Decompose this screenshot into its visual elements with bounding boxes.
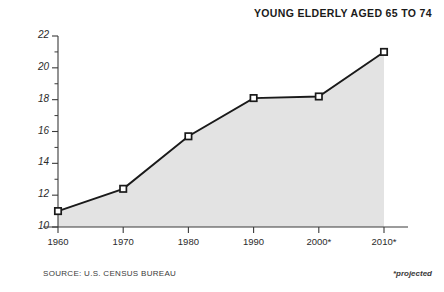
y-tick-label: 20: [15, 61, 49, 72]
source-note: SOURCE: U.S. CENSUS BUREAU: [43, 269, 176, 278]
y-tick-label: 10: [15, 220, 49, 231]
x-tick-label: 2010*: [354, 236, 414, 247]
x-tick-label: 1970: [93, 236, 153, 247]
x-tick-label: 1960: [28, 236, 88, 247]
x-tick-label: 2000*: [289, 236, 349, 247]
y-tick-label: 12: [15, 188, 49, 199]
x-tick-label: 1990: [224, 236, 284, 247]
y-tick-label: 18: [15, 93, 49, 104]
x-tick-label: 1980: [158, 236, 218, 247]
chart-figure: YOUNG ELDERLY AGED 65 TO 74 101214161820…: [0, 0, 444, 292]
y-tick-label: 14: [15, 156, 49, 167]
y-tick-label: 22: [15, 29, 49, 40]
y-tick-label: 16: [15, 125, 49, 136]
chart-svg: [0, 0, 444, 292]
projected-footnote: *projected: [393, 269, 432, 278]
plot-area: 10121416182022 19601970198019902000*2010…: [0, 0, 444, 292]
area-fill: [58, 52, 384, 227]
